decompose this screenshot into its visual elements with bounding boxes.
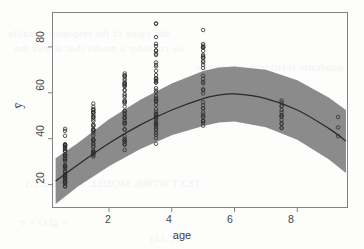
y-axis-title: ȳ bbox=[11, 94, 26, 118]
y-tick-label: 60 bbox=[34, 75, 46, 95]
y-tick-label: 40 bbox=[34, 121, 46, 141]
y-tick-label: 20 bbox=[34, 168, 46, 188]
x-tick-label: 2 bbox=[105, 213, 111, 225]
x-axis-title: age bbox=[0, 229, 364, 241]
chart-figure: 80 60 40 20 2 4 6 8 ȳ age bbox=[0, 0, 364, 249]
x-tick-label: 4 bbox=[166, 213, 172, 225]
x-tick-label: 8 bbox=[288, 213, 294, 225]
y-tick-label: 80 bbox=[34, 27, 46, 47]
x-tick-label: 6 bbox=[227, 213, 233, 225]
chart-canvas bbox=[0, 0, 364, 249]
confidence-band bbox=[56, 66, 346, 204]
